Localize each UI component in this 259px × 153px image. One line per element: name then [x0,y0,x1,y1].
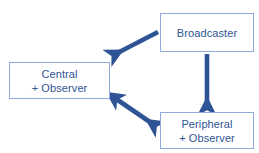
node-central-line-1: Central [41,67,77,81]
node-broadcaster[interactable]: Broadcaster [160,13,254,52]
arrow-broadcaster-to-central [114,32,159,55]
node-peripheral-line-1: Peripheral [181,117,232,131]
node-peripheral[interactable]: Peripheral + Observer [160,112,254,149]
node-broadcaster-line-1: Broadcaster [177,26,237,40]
node-central-line-2: + Observer [32,81,88,95]
diagram-canvas: Broadcaster Central + Observer Periphera… [0,0,259,153]
arrow-central-to-peripheral-bidirectional [116,99,156,126]
node-central[interactable]: Central + Observer [9,62,110,99]
node-peripheral-line-2: + Observer [179,131,235,145]
